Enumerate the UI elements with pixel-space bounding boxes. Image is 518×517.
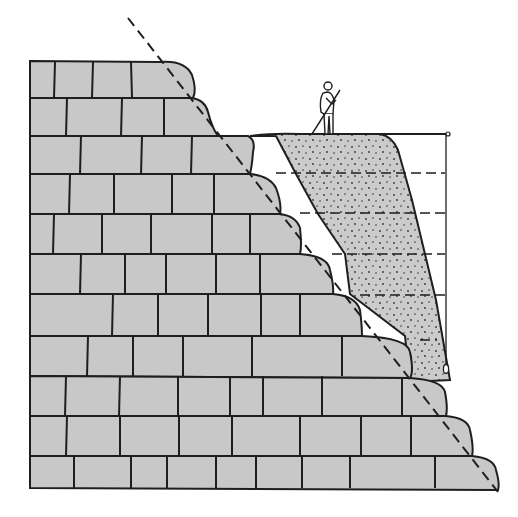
wall-course-11 (30, 456, 499, 490)
wall-course-9 (30, 376, 447, 416)
surveyor-figure (312, 82, 340, 134)
wall-course-2 (30, 98, 218, 136)
wall-course-5 (30, 214, 301, 254)
diagram-stage: Stepped stone masonry wall with sloping … (0, 0, 518, 517)
horizontal-rod (380, 132, 450, 136)
plumb-bob-icon (443, 365, 448, 374)
wall-course-6 (30, 254, 333, 294)
wall-course-4 (30, 174, 281, 214)
wall-course-7 (30, 294, 362, 336)
wall-course-10 (30, 416, 473, 456)
wall-diagram (0, 0, 518, 517)
figure-legs (324, 114, 333, 134)
figure-head (324, 82, 332, 90)
